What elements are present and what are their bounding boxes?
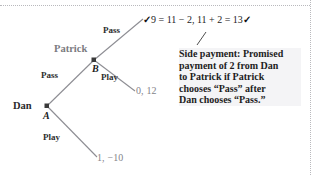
payoff-dan-expression: 9 = 11 − 2 [151, 14, 192, 25]
player-label-dan: Dan [13, 101, 32, 112]
payoff-play-patrick: −10 [108, 152, 124, 163]
payoff-pass-pass: ✓9 = 11 − 2, 11 + 2 = 13✓ [143, 14, 251, 25]
node-label-b: B [92, 64, 99, 74]
action-label-patrick-pass: Pass [103, 26, 120, 35]
diagram-canvas: Dan Patrick A B Pass Play Pass Play ✓9 =… [0, 0, 319, 175]
annotation-line: to Patrick if Patrick [179, 71, 301, 83]
annotation-line: Dan chooses “Pass.” [179, 94, 301, 106]
annotation-leader-line [197, 32, 206, 45]
annotation-line: payment of 2 from Dan [179, 60, 301, 72]
payoff-separator: , [192, 14, 195, 25]
action-label-patrick-play: Play [101, 73, 118, 82]
payoff-pass-play: 0, 12 [136, 86, 157, 96]
node-label-a: A [43, 111, 50, 121]
player-label-patrick: Patrick [54, 44, 87, 55]
checkmark-right-icon: ✓ [243, 14, 251, 25]
branch-dan-pass [47, 60, 94, 106]
annotation-line: Side payment: Promised [179, 48, 301, 60]
annotation-line: chooses “Pass” after [179, 83, 301, 95]
action-label-dan-pass: Pass [41, 71, 58, 80]
node-marker-a [45, 104, 50, 109]
node-marker-b [92, 58, 97, 63]
payoff-pass-play-separator: , [141, 85, 144, 96]
payoff-play: 1, −10 [97, 153, 123, 163]
action-label-dan-play: Play [43, 133, 60, 142]
payoff-play-separator: , [102, 152, 105, 163]
side-payment-annotation: Side payment: Promised payment of 2 from… [179, 48, 301, 106]
payoff-pass-play-patrick: 12 [147, 85, 157, 96]
payoff-patrick-expression: 11 + 2 = 13 [197, 14, 243, 25]
checkmark-left-icon: ✓ [143, 14, 151, 25]
